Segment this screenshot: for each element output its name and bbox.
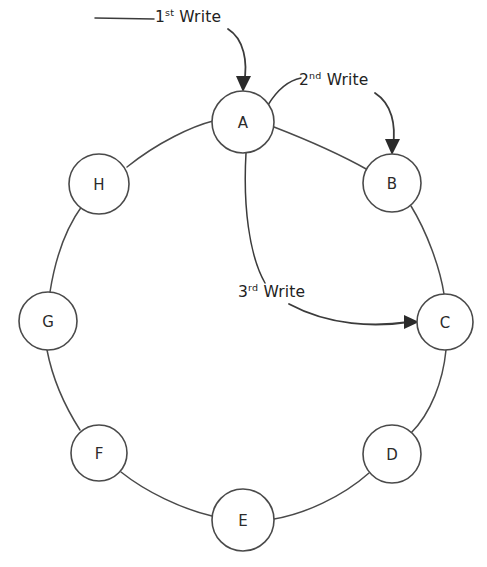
node-f-label: F (95, 445, 104, 463)
write-1-suffix: st (165, 7, 174, 18)
write-1-text: Write (179, 8, 221, 26)
write-2-suffix: nd (309, 70, 321, 81)
node-h[interactable]: H (69, 154, 129, 214)
write-3-text: Write (263, 283, 305, 301)
node-c[interactable]: C (417, 294, 473, 350)
node-e-label: E (238, 512, 247, 530)
write-2-text: Write (327, 71, 369, 89)
node-h-label: H (93, 176, 104, 194)
node-d[interactable]: D (363, 425, 421, 483)
edge-c-d (411, 350, 446, 433)
edge-e-f (121, 472, 212, 516)
node-d-label: D (386, 446, 398, 464)
node-g[interactable]: G (19, 292, 77, 350)
write-1-leader-line (95, 18, 154, 19)
edge-f-g (47, 350, 80, 430)
node-c-label: C (440, 314, 450, 332)
write-2-leader-line (268, 78, 301, 105)
write-1-arrow (228, 29, 245, 83)
write-1-label: 1st Write (155, 8, 221, 26)
edge-h-a (127, 121, 213, 167)
node-g-label: G (42, 313, 54, 331)
edge-a-b (274, 127, 368, 170)
ring-diagram: A B C D E F (0, 0, 487, 567)
node-b[interactable]: B (363, 154, 421, 212)
write-2-annotation (268, 78, 400, 155)
edge-b-c (411, 206, 444, 294)
node-b-label: B (387, 175, 397, 193)
edge-d-e (274, 473, 369, 519)
node-a-label: A (238, 114, 249, 132)
write-1-annotation (95, 18, 251, 92)
write-2-label: 2nd Write (299, 71, 369, 89)
write-2-arrowhead (385, 139, 400, 155)
node-a[interactable]: A (212, 91, 274, 153)
write-2-arrow (375, 93, 394, 146)
write-3-arrow (289, 304, 409, 324)
node-e[interactable]: E (212, 489, 274, 551)
node-f[interactable]: F (71, 425, 127, 481)
edge-g-h (50, 206, 82, 292)
write-1-arrowhead (236, 76, 251, 92)
write-3-ordinal: 3 (238, 283, 248, 301)
write-3-label: 3rd Write (238, 283, 305, 301)
write-2-ordinal: 2 (299, 71, 309, 89)
write-1-ordinal: 1 (155, 8, 165, 26)
write-3-leader-line (245, 153, 265, 283)
write-3-suffix: rd (248, 282, 258, 293)
